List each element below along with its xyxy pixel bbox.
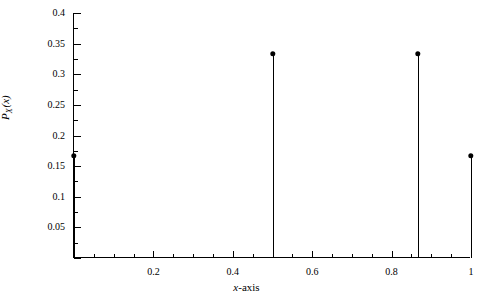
stem-line: [471, 156, 472, 258]
x-axis-minor-tick: [253, 254, 254, 258]
y-axis-tick: [74, 136, 81, 137]
y-axis-minor-tick: [74, 120, 78, 121]
stem-line: [273, 54, 274, 258]
data-point-marker: [71, 153, 76, 158]
y-axis-tick-label: 0.05: [48, 222, 66, 232]
x-axis-minor-tick: [431, 254, 432, 258]
y-axis-tick: [74, 258, 81, 259]
data-point-marker: [415, 51, 420, 56]
x-axis-tick-label: 1: [469, 267, 474, 277]
y-axis-tick-label: 0.1: [53, 192, 66, 202]
y-axis-minor-tick: [74, 90, 78, 91]
y-axis-minor-tick: [74, 151, 78, 152]
data-point-marker: [270, 51, 275, 56]
stem-line: [418, 54, 419, 258]
y-axis-minor-tick: [74, 59, 78, 60]
y-axis-tick-label: 0.3: [53, 69, 66, 79]
x-axis-tick-label: 0.2: [147, 267, 160, 277]
figure-canvas: 0.050.10.150.20.250.30.350.40.20.40.60.8…: [0, 0, 493, 302]
y-axis-tick-label: 0.15: [48, 161, 66, 171]
x-axis-tick-label: 0.8: [385, 267, 398, 277]
x-axis-tick: [392, 251, 393, 258]
x-axis-label: x-axis: [0, 281, 493, 293]
x-axis-minor-tick: [94, 254, 95, 258]
x-axis-label-rest: -axis: [238, 281, 259, 293]
x-axis-minor-tick: [292, 254, 293, 258]
y-axis-tick-label: 0.4: [53, 8, 66, 18]
y-axis-label-argument: (x): [0, 95, 11, 107]
x-axis-minor-tick: [134, 254, 135, 258]
y-axis-tick: [74, 105, 81, 106]
x-axis-minor-tick: [352, 254, 353, 258]
plot-area: 0.050.10.150.20.250.30.350.40.20.40.60.8…: [73, 13, 470, 258]
x-axis-minor-tick: [193, 254, 194, 258]
x-axis-minor-tick: [372, 254, 373, 258]
y-axis-tick-label: 0.35: [48, 39, 66, 49]
y-axis-minor-tick: [74, 28, 78, 29]
y-axis-label: PX (x): [0, 95, 14, 120]
x-axis-tick-label: 0.6: [306, 267, 319, 277]
x-axis-tick-label: 0.4: [227, 267, 240, 277]
x-axis-minor-tick: [332, 254, 333, 258]
x-axis-minor-tick: [451, 254, 452, 258]
y-axis-label-subscript: X: [5, 108, 14, 113]
y-axis-tick: [74, 74, 81, 75]
y-axis-tick: [74, 13, 81, 14]
y-axis-tick-label: 0.2: [53, 131, 66, 141]
x-axis-tick: [312, 251, 313, 258]
x-axis-tick: [233, 251, 234, 258]
x-axis-tick: [153, 251, 154, 258]
x-axis-minor-tick: [114, 254, 115, 258]
stem-line: [74, 156, 75, 258]
y-axis-tick-label: 0.25: [48, 100, 66, 110]
y-axis-tick: [74, 44, 81, 45]
x-axis-minor-tick: [173, 254, 174, 258]
y-axis-label-main: P: [0, 113, 11, 120]
data-point-marker: [468, 153, 473, 158]
x-axis-minor-tick: [213, 254, 214, 258]
x-axis-minor-tick: [411, 254, 412, 258]
